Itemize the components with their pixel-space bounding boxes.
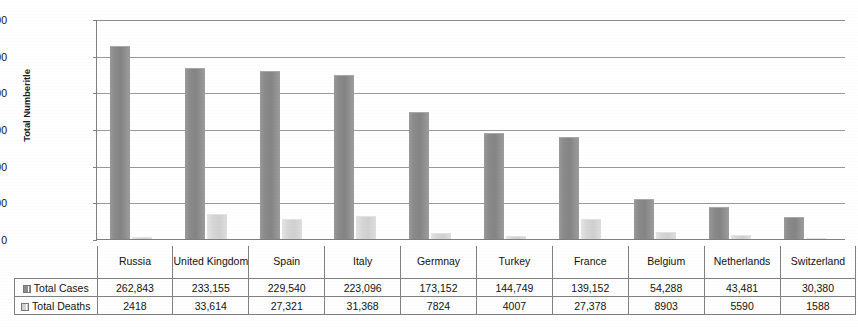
table-row: Total Cases262,843233,155229,540223,0961…: [15, 279, 856, 297]
legend-series-label: Total Deaths: [15, 297, 98, 315]
table-category-header: Netherlands: [704, 246, 780, 279]
bar-total-deaths: [356, 216, 376, 239]
table-cell-value: 262,843: [97, 279, 173, 297]
table-category-header: Switzerland: [780, 246, 856, 279]
table-category-header: Turkey: [476, 246, 552, 279]
bar-group: [621, 20, 696, 239]
bar-group: [771, 20, 846, 239]
table-category-header: France: [552, 246, 628, 279]
table-cell-value: 43,481: [704, 279, 780, 297]
bar-group: [696, 20, 771, 239]
bar-group: [247, 20, 322, 239]
table-cell-value: 139,152: [552, 279, 628, 297]
bar-total-deaths: [207, 214, 227, 239]
table-cell-value: 229,540: [249, 279, 325, 297]
bars-layer: [97, 20, 845, 239]
legend-swatch-icon: [21, 303, 29, 311]
bar-group: [172, 20, 247, 239]
y-axis-title: Total Numberitle: [21, 36, 32, 176]
table-category-header: Russia: [97, 246, 173, 279]
legend-series-label: Total Cases: [15, 279, 98, 297]
bar-total-cases: [634, 199, 654, 239]
bar-group: [322, 20, 397, 239]
y-tick-label: 100,000: [0, 162, 7, 172]
table-cell-value: 31,368: [325, 297, 401, 315]
bar-total-cases: [409, 112, 429, 239]
table-cell-value: 173,152: [401, 279, 477, 297]
bar-group: [472, 20, 547, 239]
bar-total-cases: [334, 75, 354, 239]
plot-area: [96, 20, 845, 240]
table-cell-value: 27,378: [552, 297, 628, 315]
bar-group: [97, 20, 172, 239]
bar-total-cases: [784, 217, 804, 239]
table-category-header: Italy: [325, 246, 401, 279]
y-tick-label: 200,000: [0, 88, 7, 98]
y-tick-label: 50,000: [0, 198, 7, 208]
bar-group: [397, 20, 472, 239]
bar-total-deaths: [806, 238, 826, 239]
bar-total-deaths: [656, 232, 676, 239]
y-tick-label: 150,000: [0, 125, 7, 135]
bar-total-deaths: [731, 235, 751, 239]
table-cell-value: 27,321: [249, 297, 325, 315]
table-cell-value: 2418: [97, 297, 173, 315]
table-category-header: United Kingdom: [173, 246, 249, 279]
table-cell-value: 223,096: [325, 279, 401, 297]
y-tick-mark: [93, 240, 97, 241]
table-cell-value: 30,380: [780, 279, 856, 297]
table-cell-value: 5590: [704, 297, 780, 315]
table-header-row: RussiaUnited KingdomSpainItalyGermnayTur…: [15, 246, 856, 279]
table-cell-value: 4007: [476, 297, 552, 315]
bar-total-cases: [260, 71, 280, 239]
bar-total-deaths: [581, 219, 601, 239]
table-category-header: Belgium: [628, 246, 704, 279]
y-tick-label: 0: [0, 235, 7, 245]
bar-total-cases: [110, 46, 130, 239]
legend-label-text: Total Deaths: [32, 300, 90, 312]
y-tick-label: 250,000: [0, 52, 7, 62]
table-cell-value: 33,614: [173, 297, 249, 315]
table-cell-value: 1588: [780, 297, 856, 315]
y-tick-label: 300,000: [0, 15, 7, 25]
bar-total-cases: [484, 133, 504, 239]
table-cell-value: 7824: [401, 297, 477, 315]
table-cell-value: 8903: [628, 297, 704, 315]
bar-total-deaths: [132, 237, 152, 239]
bar-total-cases: [709, 207, 729, 239]
legend-label-text: Total Cases: [34, 282, 89, 294]
legend-swatch-icon: [23, 285, 31, 293]
table-category-header: Germnay: [401, 246, 477, 279]
bar-total-cases: [559, 137, 579, 239]
bar-total-cases: [185, 68, 205, 239]
chart-title: [96, 0, 846, 5]
data-table: RussiaUnited KingdomSpainItalyGermnayTur…: [14, 246, 856, 315]
bar-total-deaths: [506, 236, 526, 239]
bar-total-deaths: [282, 219, 302, 239]
bar-total-deaths: [431, 233, 451, 239]
table-corner-cell: [15, 246, 98, 279]
table-row: Total Deaths241833,61427,32131,368782440…: [15, 297, 856, 315]
table-category-header: Spain: [249, 246, 325, 279]
table-cell-value: 54,288: [628, 279, 704, 297]
bar-group: [546, 20, 621, 239]
bar-chart-figure: Total Numberitle 300,000250,000200,00015…: [0, 0, 858, 327]
table-cell-value: 233,155: [173, 279, 249, 297]
table-cell-value: 144,749: [476, 279, 552, 297]
